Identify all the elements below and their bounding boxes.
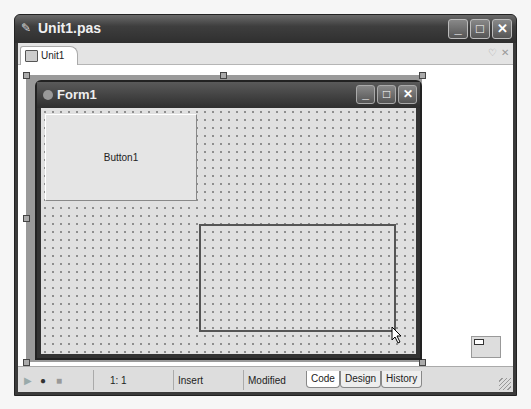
form-client-grid[interactable]: Button1 bbox=[41, 108, 416, 354]
form-close-button[interactable]: ✕ bbox=[398, 85, 417, 104]
form-title-bar[interactable]: Form1 _ □ ✕ bbox=[37, 82, 420, 108]
tab-close-icon[interactable]: ✕ bbox=[501, 47, 509, 58]
form-designer[interactable]: Form1 _ □ ✕ Button1 bbox=[18, 65, 513, 366]
macro-play-icon[interactable]: ▶ bbox=[24, 375, 32, 386]
editor-window: ✎ Unit1.pas _ □ ✕ Unit1 ♡ ✕ bbox=[14, 14, 517, 396]
tab-design[interactable]: Design bbox=[340, 371, 381, 388]
close-button[interactable]: ✕ bbox=[492, 19, 512, 39]
resize-handle-br[interactable] bbox=[419, 359, 426, 366]
mouse-cursor-icon bbox=[391, 326, 403, 344]
tab-history[interactable]: History bbox=[381, 371, 422, 388]
form-title: Form1 bbox=[57, 87, 97, 102]
form1-window[interactable]: Form1 _ □ ✕ Button1 bbox=[35, 80, 422, 360]
cursor-position: 1: 1 bbox=[93, 370, 173, 390]
status-bar: ▶ ● ■ 1: 1 Insert Modified Code Design H… bbox=[18, 366, 513, 392]
tab-code[interactable]: Code bbox=[306, 371, 340, 388]
title-bar[interactable]: ✎ Unit1.pas _ □ ✕ bbox=[15, 15, 516, 43]
form-maximize-button[interactable]: □ bbox=[377, 85, 396, 104]
resize-handle-tl[interactable] bbox=[23, 72, 30, 79]
form-minimize-button[interactable]: _ bbox=[356, 85, 375, 104]
resize-grip-icon[interactable] bbox=[499, 378, 511, 390]
maximize-button[interactable]: □ bbox=[470, 19, 490, 39]
drag-selection-rectangle bbox=[199, 224, 396, 332]
macro-stop-icon[interactable]: ■ bbox=[56, 375, 62, 386]
macro-record-icon[interactable]: ● bbox=[40, 375, 46, 386]
designer-minimap[interactable] bbox=[471, 336, 501, 358]
resize-handle-left[interactable] bbox=[23, 215, 30, 222]
resize-handle-bl[interactable] bbox=[23, 359, 30, 366]
file-tab-row: Unit1 ♡ ✕ bbox=[18, 43, 513, 65]
modified-state: Modified bbox=[243, 370, 305, 390]
window-title: Unit1.pas bbox=[38, 20, 101, 36]
tab-list-icon[interactable]: ♡ bbox=[488, 47, 497, 58]
minimize-button[interactable]: _ bbox=[448, 19, 468, 39]
minimap-viewport[interactable] bbox=[474, 339, 484, 345]
unit-file-icon bbox=[25, 50, 38, 62]
resize-handle-tr[interactable] bbox=[419, 72, 426, 79]
form-icon bbox=[43, 90, 53, 100]
edit-file-icon: ✎ bbox=[21, 22, 34, 35]
resize-handle-top[interactable] bbox=[220, 72, 227, 79]
button1[interactable]: Button1 bbox=[45, 114, 197, 201]
insert-mode: Insert bbox=[173, 370, 243, 390]
tab-label: Unit1 bbox=[41, 50, 64, 61]
tab-unit1[interactable]: Unit1 bbox=[20, 46, 78, 66]
